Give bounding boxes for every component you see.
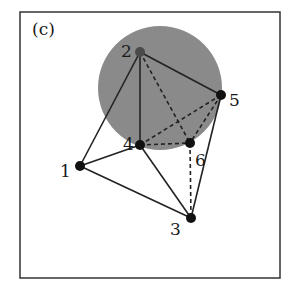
node-label-3: 3 bbox=[170, 219, 181, 239]
node-label-1: 1 bbox=[60, 161, 71, 181]
graph-diagram: (c) 123456 bbox=[0, 0, 292, 288]
node-5 bbox=[216, 90, 226, 100]
node-1 bbox=[75, 161, 85, 171]
node-label-5: 5 bbox=[229, 90, 240, 110]
edge-4-3 bbox=[140, 145, 191, 218]
node-3 bbox=[186, 213, 196, 223]
node-label-4: 4 bbox=[123, 134, 134, 154]
node-4 bbox=[135, 140, 145, 150]
shaded-disk bbox=[98, 26, 222, 150]
node-label-2: 2 bbox=[121, 41, 132, 61]
edge-6-3 bbox=[190, 143, 191, 218]
edge-1-3 bbox=[80, 166, 191, 218]
panel-label: (c) bbox=[32, 19, 55, 39]
node-label-6: 6 bbox=[195, 150, 206, 170]
node-6 bbox=[185, 138, 195, 148]
node-2 bbox=[135, 47, 145, 57]
